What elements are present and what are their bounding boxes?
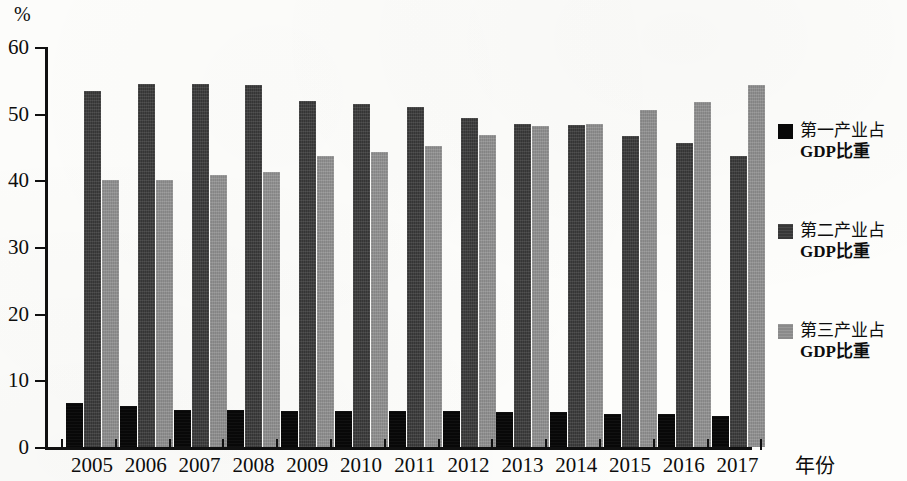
bar-group bbox=[389, 47, 442, 447]
x-axis-label: 2008 bbox=[227, 455, 279, 476]
x-axis-label: 2006 bbox=[120, 455, 172, 476]
bar-series-2 bbox=[192, 84, 209, 447]
bar-series-3 bbox=[210, 175, 227, 447]
bar-series-2 bbox=[138, 84, 155, 447]
bar-group bbox=[712, 47, 765, 447]
bar-groups bbox=[48, 47, 752, 447]
x-axis-tick bbox=[707, 439, 709, 450]
y-axis-tick: 40 bbox=[35, 180, 45, 182]
y-axis-unit-label: % bbox=[14, 4, 31, 24]
y-axis-tick: 30 bbox=[35, 247, 45, 249]
x-axis-label: 2010 bbox=[335, 455, 387, 476]
legend-label: 第二产业占GDP比重 bbox=[800, 220, 885, 262]
x-axis-label: 2012 bbox=[443, 455, 495, 476]
bar-series-3 bbox=[479, 135, 496, 447]
bar-series-2 bbox=[568, 125, 585, 447]
bar-series-1 bbox=[712, 416, 729, 447]
bar-group bbox=[174, 47, 227, 447]
bar-series-1 bbox=[174, 410, 191, 447]
x-axis-label: 2013 bbox=[496, 455, 548, 476]
y-axis-tick: 0 bbox=[35, 447, 45, 449]
bar-series-3 bbox=[263, 172, 280, 447]
x-axis-tick bbox=[760, 439, 762, 450]
bar-series-3 bbox=[532, 126, 549, 447]
bar-group bbox=[335, 47, 388, 447]
bar-series-3 bbox=[156, 180, 173, 447]
x-axis-label: 2007 bbox=[174, 455, 226, 476]
legend-swatch-icon bbox=[778, 324, 793, 339]
bar-series-1 bbox=[604, 414, 621, 447]
bar-series-2 bbox=[622, 136, 639, 447]
x-axis-tick bbox=[61, 439, 63, 450]
x-axis-label: 2005 bbox=[66, 455, 118, 476]
bar-chart-figure: % 0102030405060 200520062007200820092010… bbox=[0, 0, 907, 481]
bar-series-3 bbox=[640, 110, 657, 447]
bar-group bbox=[227, 47, 280, 447]
legend-label: 第一产业占GDP比重 bbox=[800, 120, 885, 162]
bar-series-2 bbox=[299, 101, 316, 447]
legend-item[interactable]: 第一产业占GDP比重 bbox=[778, 120, 885, 162]
bar-series-2 bbox=[245, 85, 262, 447]
bar-series-1 bbox=[335, 411, 352, 447]
legend-label: 第三产业占GDP比重 bbox=[800, 320, 885, 362]
x-axis-tick bbox=[545, 439, 547, 450]
x-axis-title: 年份 bbox=[795, 456, 835, 476]
bar-group bbox=[604, 47, 657, 447]
legend-item[interactable]: 第二产业占GDP比重 bbox=[778, 220, 885, 262]
x-axis-label: 2016 bbox=[658, 455, 710, 476]
bar-series-2 bbox=[461, 118, 478, 447]
x-axis-tick bbox=[276, 439, 278, 450]
bar-group bbox=[281, 47, 334, 447]
x-axis-line bbox=[45, 447, 752, 450]
x-axis-label: 2015 bbox=[604, 455, 656, 476]
bar-series-1 bbox=[66, 403, 83, 447]
bar-series-1 bbox=[389, 411, 406, 447]
bar-series-2 bbox=[514, 124, 531, 447]
x-axis-tick bbox=[222, 439, 224, 450]
x-axis-label: 2011 bbox=[389, 455, 441, 476]
bar-series-2 bbox=[730, 156, 747, 447]
bar-series-2 bbox=[353, 104, 370, 447]
y-axis-tick: 60 bbox=[35, 47, 45, 49]
x-axis-tick bbox=[653, 439, 655, 450]
bar-series-3 bbox=[371, 152, 388, 447]
bar-group bbox=[550, 47, 603, 447]
bar-series-1 bbox=[227, 410, 244, 447]
x-axis-label: 2017 bbox=[712, 455, 764, 476]
x-axis-tick bbox=[599, 439, 601, 450]
x-axis-tick bbox=[330, 439, 332, 450]
plot-area: 0102030405060 bbox=[45, 47, 752, 447]
y-axis-tick-label: 50 bbox=[8, 104, 29, 125]
x-axis-tick bbox=[384, 439, 386, 450]
bar-series-3 bbox=[694, 102, 711, 447]
y-axis-tick-label: 30 bbox=[8, 237, 29, 258]
bar-series-1 bbox=[658, 414, 675, 447]
x-axis-tick bbox=[438, 439, 440, 450]
bar-series-2 bbox=[676, 143, 693, 447]
bar-series-3 bbox=[102, 180, 119, 447]
x-axis-tick bbox=[115, 439, 117, 450]
y-axis-tick: 50 bbox=[35, 114, 45, 116]
bar-series-2 bbox=[407, 107, 424, 447]
bar-series-3 bbox=[748, 85, 765, 447]
bar-series-2 bbox=[84, 91, 101, 447]
bar-group bbox=[658, 47, 711, 447]
bar-group bbox=[496, 47, 549, 447]
bar-series-1 bbox=[443, 411, 460, 447]
y-axis-tick-label: 20 bbox=[8, 304, 29, 325]
y-axis-tick-label: 60 bbox=[8, 37, 29, 58]
bar-series-1 bbox=[496, 412, 513, 447]
bar-series-3 bbox=[425, 146, 442, 447]
bar-group bbox=[66, 47, 119, 447]
legend-swatch-icon bbox=[778, 124, 793, 139]
x-axis-tick bbox=[169, 439, 171, 450]
y-axis-tick-label: 0 bbox=[19, 437, 30, 458]
bar-series-1 bbox=[120, 406, 137, 447]
legend-swatch-icon bbox=[778, 224, 793, 239]
y-axis-tick: 20 bbox=[35, 314, 45, 316]
bar-series-3 bbox=[317, 156, 334, 447]
legend-item[interactable]: 第三产业占GDP比重 bbox=[778, 320, 885, 362]
y-axis-tick: 10 bbox=[35, 380, 45, 382]
bar-group bbox=[443, 47, 496, 447]
y-axis-tick-label: 40 bbox=[8, 170, 29, 191]
